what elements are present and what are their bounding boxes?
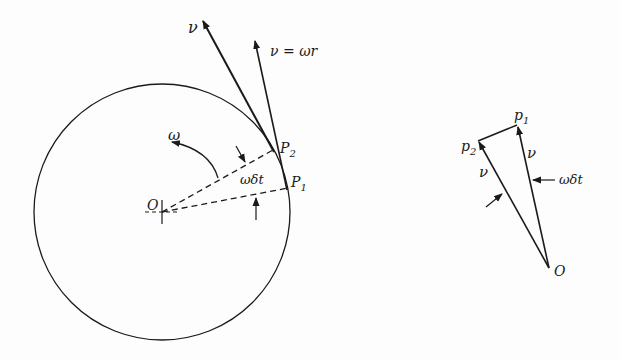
label-p1: P1	[290, 174, 307, 193]
right-figure: p1 p2 ν ν ωδt O	[461, 107, 583, 279]
angle-arrow-upper	[236, 146, 245, 162]
label-v-top: ν	[188, 18, 198, 37]
label-p1-right: p1	[514, 107, 529, 126]
velocity-arrow-v-eq-omega-r	[255, 41, 287, 190]
label-origin-right: O	[554, 263, 566, 279]
label-omega-dt-right: ωδt	[559, 172, 583, 187]
segment-p2-p1	[478, 125, 517, 141]
label-v-right: ν	[527, 144, 536, 162]
diagram-canvas: ν ν = ωr ω P2 P1 ωδt O p1 p2 ν ν ωδt O	[0, 0, 620, 360]
label-v-left: ν	[479, 163, 488, 181]
omega-rotation-arrow	[172, 142, 218, 178]
velocity-arrow-v	[203, 21, 274, 152]
label-origin: O	[147, 197, 159, 213]
label-omega: ω	[168, 126, 180, 144]
angle-arrow-left	[486, 194, 502, 207]
radius-to-p1	[162, 188, 288, 212]
label-p2: P2	[279, 140, 296, 159]
vector-o-to-p2	[479, 142, 549, 268]
label-p2-right: p2	[461, 138, 476, 157]
label-v-eq-omega-r: ν = ωr	[270, 43, 319, 59]
rotation-velocity-diagram: ν ν = ωr ω P2 P1 ωδt O p1 p2 ν ν ωδt O	[0, 0, 620, 360]
label-omega-dt: ωδt	[240, 172, 264, 187]
left-figure: ν ν = ωr ω P2 P1 ωδt O	[34, 18, 319, 340]
